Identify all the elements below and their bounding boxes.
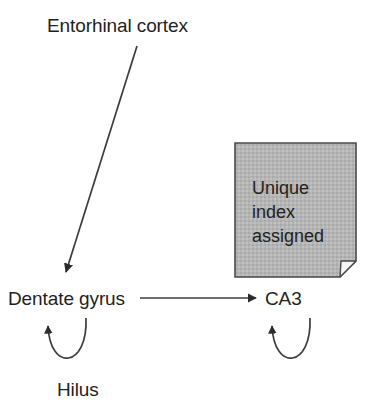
sticky-note-text: Unique index assigned bbox=[252, 176, 347, 248]
diagram-canvas: Entorhinal cortex Dentate gyrus CA3 Hilu… bbox=[0, 0, 368, 415]
entorhinal-to-dentate-arrow bbox=[66, 46, 137, 272]
ca3-recurrent-loop bbox=[272, 318, 310, 358]
sticky-note-line-2: index bbox=[252, 200, 347, 224]
node-label-dentate-gyrus: Dentate gyrus bbox=[8, 289, 125, 308]
sticky-note-line-1: Unique bbox=[252, 176, 347, 200]
dentate-hilus-loop bbox=[48, 318, 86, 358]
sticky-note-fold-icon bbox=[340, 261, 356, 277]
node-label-ca3: CA3 bbox=[265, 289, 302, 308]
sticky-note-line-3: assigned bbox=[252, 224, 347, 248]
node-label-entorhinal-cortex: Entorhinal cortex bbox=[47, 16, 188, 35]
node-label-hilus: Hilus bbox=[57, 380, 99, 399]
